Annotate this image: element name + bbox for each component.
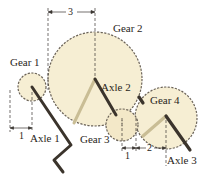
label-gear-4: Gear 4	[150, 95, 180, 106]
dimension-gear-2-radius: 3	[68, 7, 73, 17]
label-axle-3: Axle 3	[167, 155, 197, 166]
dimension-gear-1-radius: 1	[19, 131, 24, 141]
label-gear-2: Gear 2	[113, 23, 143, 34]
dimension-gear-4-radius: 2	[147, 143, 152, 153]
label-axle-2: Axle 2	[101, 82, 131, 93]
dimension-gear-3-radius: 1	[125, 151, 130, 161]
label-gear-3: Gear 3	[80, 134, 110, 145]
label-axle-1: Axle 1	[30, 133, 60, 144]
label-gear-1: Gear 1	[10, 57, 40, 68]
